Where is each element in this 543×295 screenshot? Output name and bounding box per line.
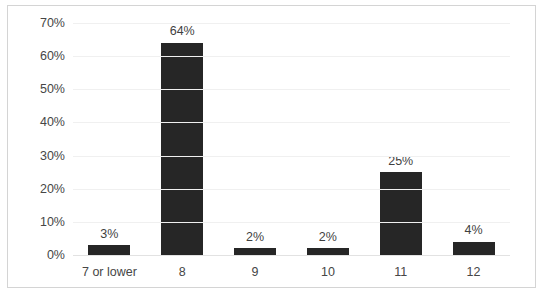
gridline (73, 189, 510, 190)
bar[interactable] (88, 245, 130, 255)
x-axis-tick-label: 12 (467, 266, 481, 279)
x-axis-tick-label: 9 (252, 266, 259, 279)
bar-group: 2%9 (219, 23, 292, 255)
bar-group: 3%7 or lower (73, 23, 146, 255)
y-axis-tick-label: 30% (40, 149, 65, 162)
axis-baseline (73, 255, 510, 256)
gridline (73, 56, 510, 57)
gridline (73, 156, 510, 157)
bar-group: 64%8 (146, 23, 219, 255)
gridline (73, 222, 510, 223)
bar-series: 3%7 or lower64%82%92%1025%114%12 (73, 23, 510, 255)
bar-value-label: 2% (319, 231, 337, 244)
bar-value-label: 3% (100, 228, 118, 241)
y-axis-tick-label: 20% (40, 182, 65, 195)
bar-value-label: 64% (170, 25, 195, 38)
bar[interactable] (161, 43, 203, 255)
gridline (73, 89, 510, 90)
y-axis-tick-label: 40% (40, 116, 65, 129)
bar-group: 2%10 (292, 23, 365, 255)
gridline (73, 122, 510, 123)
x-axis-tick-label: 10 (321, 266, 335, 279)
bar[interactable] (307, 248, 349, 255)
bar-group: 4%12 (437, 23, 510, 255)
y-axis-tick-label: 50% (40, 83, 65, 96)
bar[interactable] (380, 172, 422, 255)
bar-group: 25%11 (364, 23, 437, 255)
x-axis-tick-label: 7 or lower (82, 266, 137, 279)
bar[interactable] (453, 242, 495, 255)
chart-frame: 3%7 or lower64%82%92%1025%114%12 0%10%20… (7, 5, 536, 288)
y-axis-tick-label: 10% (40, 216, 65, 229)
y-axis-tick-label: 70% (40, 17, 65, 30)
x-axis-tick-label: 8 (179, 266, 186, 279)
bar[interactable] (234, 248, 276, 255)
bar-value-label: 4% (465, 224, 483, 237)
gridline (73, 23, 510, 24)
bar-value-label: 2% (246, 231, 264, 244)
plot-area: 3%7 or lower64%82%92%1025%114%12 0%10%20… (73, 23, 510, 255)
y-axis-tick-label: 0% (47, 249, 65, 262)
y-axis-tick-label: 60% (40, 50, 65, 63)
x-axis-tick-label: 11 (394, 266, 407, 279)
